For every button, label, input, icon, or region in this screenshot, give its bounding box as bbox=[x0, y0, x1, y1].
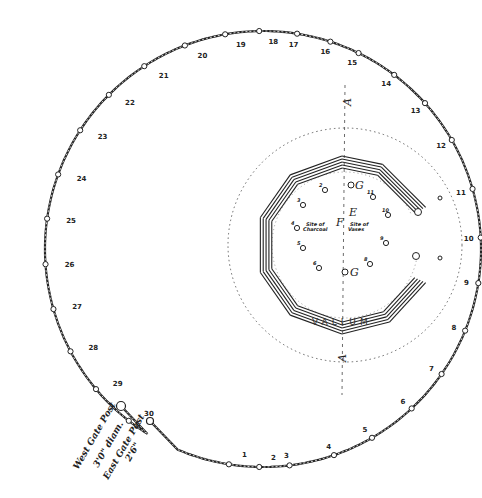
outer-post-label: 27 bbox=[72, 303, 82, 311]
outer-post bbox=[43, 262, 48, 267]
post-hole-label: 10 bbox=[382, 207, 389, 213]
outer-post-label: 19 bbox=[236, 41, 246, 49]
outer-post-label: 29 bbox=[113, 380, 123, 388]
g-post-top bbox=[348, 182, 354, 188]
outer-post-label: 23 bbox=[98, 133, 108, 141]
letter-g-bottom: G bbox=[350, 266, 359, 279]
outer-post-label: 22 bbox=[125, 99, 135, 107]
outer-post bbox=[182, 43, 187, 48]
outer-post-label: 21 bbox=[159, 72, 169, 80]
west-gate-post bbox=[117, 402, 126, 411]
outer-post-label: 2 bbox=[271, 454, 276, 462]
outer-post-label: 10 bbox=[464, 235, 474, 243]
post-hole-label: 6 bbox=[313, 260, 317, 266]
outer-post-label: 13 bbox=[411, 107, 421, 115]
outer-post bbox=[226, 462, 231, 467]
post-hole-label: 4 bbox=[291, 220, 295, 226]
bank-stripe bbox=[266, 180, 294, 220]
outer-post-label: 18 bbox=[268, 38, 278, 46]
gate-posts: West Gate Post 3'0" diam. East Gate Post… bbox=[71, 400, 153, 482]
bank-stripe bbox=[379, 172, 418, 211]
axis-label-bottom: A bbox=[336, 354, 349, 363]
outer-post bbox=[463, 328, 468, 333]
outer-post-label: 7 bbox=[429, 365, 434, 373]
post-hole-label: 3 bbox=[297, 197, 301, 203]
axis-line bbox=[342, 85, 345, 395]
bank-stripe bbox=[380, 170, 420, 210]
outer-post-label: 17 bbox=[289, 41, 299, 49]
bank-stripe bbox=[381, 167, 423, 209]
outer-post bbox=[392, 72, 397, 77]
outer-post-label: 4 bbox=[326, 443, 331, 451]
outer-post-label: 15 bbox=[347, 59, 357, 67]
outer-post-label: 28 bbox=[88, 344, 98, 352]
outer-post-label: 12 bbox=[436, 142, 446, 150]
outer-post bbox=[257, 464, 262, 469]
post-hole-label: 9 bbox=[380, 235, 384, 241]
site-vases-line2: Vases bbox=[348, 226, 364, 232]
outer-post-label: 20 bbox=[198, 52, 208, 60]
outer-post-label: 30 bbox=[144, 410, 154, 418]
outer-post bbox=[51, 306, 56, 311]
outer-post-label: 3 bbox=[284, 452, 289, 460]
post-hole bbox=[316, 265, 321, 270]
post-hole-label: 5 bbox=[297, 240, 301, 246]
bank-stripe bbox=[272, 184, 298, 221]
post-hole bbox=[383, 240, 388, 245]
post-hole bbox=[367, 261, 372, 266]
letter-e: E bbox=[348, 206, 357, 219]
outer-post bbox=[356, 50, 361, 55]
bank-stripe bbox=[269, 182, 296, 220]
g-post-bottom bbox=[342, 269, 348, 275]
outer-post bbox=[331, 453, 336, 458]
outer-post bbox=[126, 418, 131, 423]
entrance-post-north bbox=[415, 209, 422, 216]
letter-f: F bbox=[335, 216, 344, 229]
bank-stripe bbox=[383, 164, 426, 207]
outer-post bbox=[56, 172, 61, 177]
post-hole bbox=[294, 225, 299, 230]
outer-post bbox=[409, 406, 414, 411]
outer-post bbox=[287, 463, 292, 468]
bank-stripe bbox=[266, 271, 294, 311]
outer-post-label: 16 bbox=[320, 48, 330, 56]
axis-label-top: A bbox=[341, 98, 354, 107]
outer-post bbox=[142, 64, 147, 69]
post-hole-label: 8 bbox=[364, 256, 368, 262]
outer-post bbox=[478, 235, 482, 240]
outer-post bbox=[295, 31, 300, 36]
outer-post bbox=[106, 92, 111, 97]
outer-post bbox=[45, 216, 50, 221]
entrance-marker-north bbox=[438, 196, 442, 200]
outer-post bbox=[328, 39, 333, 44]
outer-post bbox=[78, 128, 83, 133]
vallum-label: VALLUM bbox=[312, 317, 372, 327]
outer-post bbox=[422, 101, 427, 106]
outer-post bbox=[369, 435, 374, 440]
outer-post bbox=[449, 137, 454, 142]
entrance-marker-south bbox=[438, 256, 442, 260]
outer-post-label: 11 bbox=[456, 189, 466, 197]
outer-post-label: 14 bbox=[381, 80, 391, 88]
stone-circle-plan: 1234567891011121314151617181920212223242… bbox=[0, 0, 482, 498]
east-gate-post bbox=[147, 418, 154, 425]
bank-stripe bbox=[387, 280, 421, 317]
inner-monument: A A VALLUM G G E F Site of Charcoal Site… bbox=[228, 85, 462, 395]
outer-post bbox=[470, 186, 475, 191]
entrance-gap bbox=[405, 215, 445, 251]
outer-post-label: 26 bbox=[65, 261, 75, 269]
outer-post-label: 1 bbox=[242, 451, 247, 459]
outer-post-label: 5 bbox=[363, 426, 368, 434]
post-hole-label: 2 bbox=[319, 182, 323, 188]
outer-post bbox=[223, 32, 228, 37]
outer-post-label: 25 bbox=[66, 217, 76, 225]
outer-post-label: 24 bbox=[77, 175, 87, 183]
post-hole bbox=[385, 212, 390, 217]
outer-post bbox=[476, 281, 481, 286]
letter-g-top: G bbox=[355, 179, 364, 192]
outer-post-label: 6 bbox=[400, 398, 405, 406]
post-hole bbox=[322, 187, 327, 192]
entrance-post-south bbox=[413, 253, 420, 260]
post-hole bbox=[300, 202, 305, 207]
outer-post bbox=[68, 349, 73, 354]
